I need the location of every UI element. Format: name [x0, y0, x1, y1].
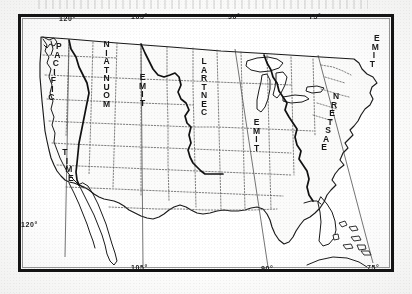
meridian-label-75-bottom: 75°	[367, 264, 379, 271]
page-bleed-artifact	[38, 0, 368, 9]
zone-label-central-word2: EMIT	[253, 118, 260, 152]
cuba-sliver	[307, 257, 367, 267]
meridian-label-120-left: 120°	[21, 221, 38, 228]
meridian-label-105-top: 105°	[131, 13, 148, 20]
zone-label-mountain-word1: NIAT NUOM	[103, 40, 110, 108]
scanned-page: .coast { fill:#fbfbfa; stroke:#1a1a1a; s…	[0, 0, 412, 294]
zone-label-pacific-word1: P A C I F I C	[46, 42, 62, 102]
zone-label-central-word1: LART NEC	[201, 57, 207, 117]
meridian-label-105-bottom: 105°	[131, 264, 148, 271]
keys-islands	[333, 221, 371, 255]
meridian-label-120-top: 120°	[59, 15, 76, 22]
meridian-label-75-top: 75°	[309, 13, 321, 20]
zone-label-pacific-word2: T I M E	[56, 148, 74, 182]
zone-label-eastern-word2: E M I T	[368, 34, 380, 68]
zone-label-eastern-word1: N R E T S A E	[317, 92, 339, 152]
meridian-label-90-top: 90°	[228, 13, 240, 20]
meridian-label-90-bottom: 90°	[261, 265, 273, 272]
zone-label-mountain-word2: EMIT	[139, 73, 146, 107]
